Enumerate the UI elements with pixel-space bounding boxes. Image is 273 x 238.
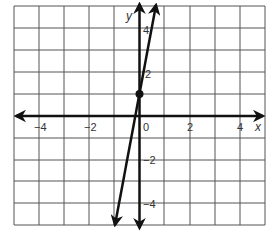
y-tick-label: 2 [145, 68, 151, 80]
y-intercept-point [136, 90, 144, 98]
y-tick-label: 4 [143, 24, 149, 36]
coordinate-plane: y x −4 −2 0 2 4 4 2 −2 −4 [0, 0, 273, 238]
x-axis-label: x [254, 120, 262, 134]
y-axis-label: y [125, 9, 133, 23]
x-tick-label: 4 [237, 121, 243, 133]
x-tick-label: −4 [34, 121, 47, 133]
y-tick-label: −4 [143, 198, 156, 210]
x-tick-label: 2 [187, 121, 193, 133]
y-tick-label: −2 [143, 154, 156, 166]
x-tick-label: 0 [143, 121, 149, 133]
x-tick-label: −2 [84, 121, 97, 133]
